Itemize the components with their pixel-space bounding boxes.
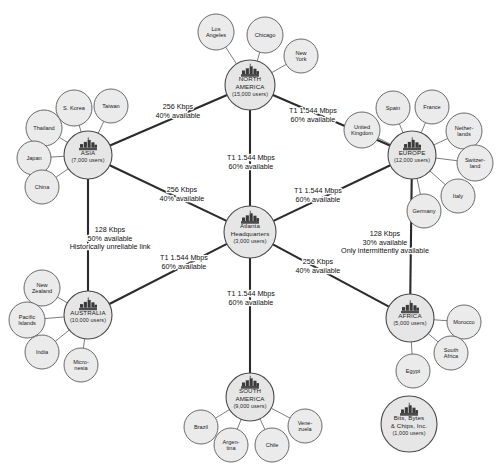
spoke-link-australia-2[interactable]	[55, 330, 69, 341]
leaf-node-label: Zealand	[32, 288, 52, 294]
leaf-node-north_america-1[interactable]: Chicago	[247, 17, 283, 53]
leaf-node-europe-4[interactable]: Switzer-land	[457, 145, 493, 181]
leaf-node-africa-1[interactable]: SouthAfrica	[434, 336, 468, 370]
leaf-node-south_america-3[interactable]: Vene-zuela	[288, 409, 322, 443]
hub-node-user-count: (3,000 users)	[233, 238, 266, 244]
spoke-link-north_america-2[interactable]	[272, 64, 286, 72]
spoke-link-asia-1[interactable]	[98, 121, 104, 133]
leaf-node-label: New	[295, 50, 307, 56]
leaf-node-australia-3[interactable]: Micro-nesia	[64, 348, 98, 382]
spoke-link-africa-0[interactable]	[434, 320, 447, 321]
leaf-node-north_america-0[interactable]: LosAngeles	[198, 14, 234, 50]
link-label-line: 60% available	[291, 115, 336, 124]
leaf-node-label: Africa	[444, 353, 459, 359]
link-label-europe_atlanta: T1 1.544 MbpsT1 1.544 Mbps60% available6…	[294, 186, 342, 204]
backbone-link-europe_africa[interactable]	[410, 179, 411, 294]
spoke-link-europe-4[interactable]	[436, 158, 457, 161]
leaf-node-africa-2[interactable]: Egypt	[396, 354, 430, 388]
leaf-node-label: Argen-	[223, 439, 240, 445]
link-label-line: 60% available	[162, 262, 207, 271]
leaf-node-south_america-2[interactable]: Chile	[255, 428, 289, 462]
hub-node-asia[interactable]: ASIA(7,000 users)	[64, 131, 112, 179]
leaf-node-label: Kingdom	[351, 130, 373, 136]
leaf-node-label: nesia	[74, 365, 88, 371]
spoke-link-europe-0[interactable]	[399, 124, 403, 133]
spoke-link-australia-0[interactable]	[58, 297, 68, 303]
link-label-line: 60% available	[229, 162, 274, 171]
spoke-link-north_america-0[interactable]	[226, 47, 237, 64]
leaf-node-asia-4[interactable]: China	[25, 170, 59, 204]
leaf-node-europe-6[interactable]: Germany	[407, 194, 441, 228]
spoke-link-north_america-1[interactable]	[257, 52, 260, 61]
hub-node-atlanta[interactable]: AtlantaHeadquarters(3,000 users)	[224, 206, 276, 258]
leaf-node-label: lands	[457, 131, 471, 137]
link-label-na_asia: 256 Kbps256 Kbps40% available40% availab…	[156, 102, 201, 120]
leaf-node-europe-3[interactable]: Nether-lands	[446, 113, 482, 149]
leaf-node-europe-5[interactable]: Italy	[441, 179, 475, 213]
spoke-link-europe-5[interactable]	[430, 171, 445, 185]
spoke-link-africa-1[interactable]	[428, 334, 438, 342]
hub-node-user-count: (9,000 users)	[233, 403, 266, 409]
hub-node-name: AMERICA	[236, 395, 266, 402]
hub-node-name: ASIA	[81, 149, 96, 156]
hub-node-user-count: (5,000 users)	[393, 320, 426, 326]
spoke-link-asia-3[interactable]	[51, 156, 64, 157]
leaf-node-label: Egypt	[406, 368, 421, 374]
spoke-link-europe-3[interactable]	[434, 139, 448, 145]
leaf-node-label: Japan	[26, 155, 41, 161]
hub-node-africa[interactable]: AFRICA(5,000 users)	[386, 294, 434, 342]
leaf-node-south_america-0[interactable]: Brazil	[184, 410, 218, 444]
hub-node-bits_bytes_chips[interactable]: Bits, Bytes& Chips, Inc.(1,000 users)	[381, 396, 437, 452]
leaf-node-europe-0[interactable]: Spain	[376, 91, 410, 125]
spoke-link-australia-1[interactable]	[45, 317, 64, 319]
link-label-atlanta_africa: 256 Kbps256 Kbps40% available40% availab…	[296, 257, 341, 275]
leaf-node-label: Islands	[18, 320, 36, 326]
spoke-link-south_america-2[interactable]	[260, 419, 265, 430]
hub-node-name: SOUTH	[239, 387, 261, 394]
leaf-node-europe-1[interactable]: France	[415, 90, 449, 124]
hub-node-name: Headquarters	[231, 230, 270, 237]
leaf-node-label: Nether-	[455, 125, 474, 131]
hub-node-user-count: (1,000 users)	[392, 430, 425, 436]
hub-node-north_america[interactable]: NORTHAMERICA(15,000 users)	[225, 60, 275, 110]
leaf-node-europe-2[interactable]: UnitedKingdom	[344, 112, 380, 148]
leaf-node-label: Switzer-	[465, 157, 485, 163]
spoke-link-africa-2[interactable]	[411, 342, 412, 354]
link-label-line: 60% available	[296, 195, 341, 204]
leaf-node-label: Germany	[412, 208, 435, 214]
leaf-node-asia-0[interactable]: S. Korea	[56, 90, 92, 126]
spoke-link-australia-3[interactable]	[83, 339, 84, 348]
leaf-node-label: Morocco	[453, 319, 474, 325]
hub-node-name: AMERICA	[236, 83, 266, 90]
link-label-line: Only intermittently available	[341, 246, 429, 255]
leaf-node-asia-2[interactable]: Thailand	[26, 110, 62, 146]
leaf-node-australia-0[interactable]: NewZealand	[24, 270, 60, 306]
link-label-na_atlanta: T1 1.544 MbpsT1 1.544 Mbps60% available6…	[227, 153, 275, 171]
hub-node-south_america[interactable]: SOUTHAMERICA(9,000 users)	[226, 373, 274, 421]
leaf-node-label: France	[423, 104, 440, 110]
spoke-link-south_america-1[interactable]	[237, 419, 241, 429]
hub-node-name: EUROPE	[399, 149, 426, 156]
hub-node-user-count: (15,000 users)	[232, 91, 268, 97]
link-label-line: 40% available	[160, 194, 205, 203]
leaf-node-label: Brazil	[194, 424, 208, 430]
spoke-link-asia-4[interactable]	[56, 169, 68, 178]
spoke-link-europe-1[interactable]	[421, 123, 425, 133]
leaf-node-australia-2[interactable]: India	[25, 335, 59, 369]
leaf-node-asia-1[interactable]: Taiwan	[94, 89, 128, 123]
spoke-link-south_america-3[interactable]	[271, 408, 290, 418]
leaf-node-south_america-1[interactable]: Argen-tina	[214, 428, 248, 462]
hub-node-australia[interactable]: AUSTRALIA(10,000 users)	[64, 291, 112, 339]
hub-node-user-count: (12,000 users)	[394, 157, 430, 163]
link-label-line: 40% available	[296, 266, 341, 275]
leaf-node-asia-3[interactable]: Japan	[17, 141, 51, 175]
leaf-node-label: zuela	[298, 426, 312, 432]
spoke-link-asia-2[interactable]	[59, 137, 67, 142]
spoke-link-south_america-0[interactable]	[215, 410, 229, 419]
leaf-node-australia-1[interactable]: PacificIslands	[9, 302, 45, 338]
leaf-node-africa-0[interactable]: Morocco	[447, 305, 481, 339]
spoke-link-europe-6[interactable]	[417, 178, 420, 194]
spoke-link-asia-0[interactable]	[79, 125, 81, 132]
leaf-node-north_america-2[interactable]: NewYork	[284, 39, 318, 73]
hub-node-europe[interactable]: EUROPE(12,000 users)	[388, 131, 436, 179]
